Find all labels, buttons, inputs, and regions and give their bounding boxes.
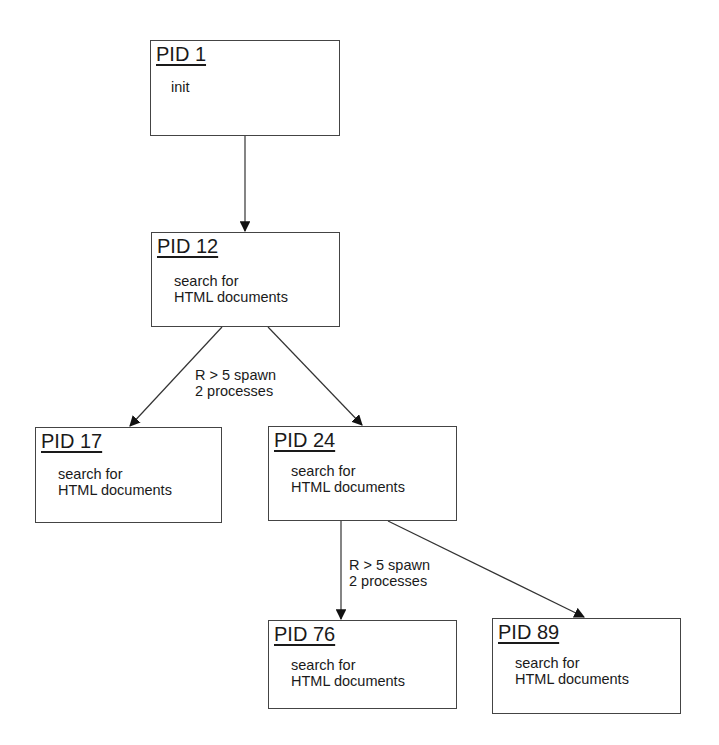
process-node-pid89: PID 89 search for HTML documents — [492, 618, 681, 714]
edge-label-line: 2 processes — [195, 383, 273, 399]
node-description: search for HTML documents — [174, 273, 288, 305]
process-node-pid12: PID 12 search for HTML documents — [151, 232, 340, 327]
node-pid-label: PID 89 — [498, 621, 559, 643]
node-description-line: search for — [291, 463, 355, 479]
node-description-line: HTML documents — [515, 671, 629, 687]
node-description: search for HTML documents — [515, 655, 629, 687]
node-description: search for HTML documents — [291, 657, 405, 689]
node-description: search for HTML documents — [58, 466, 172, 498]
node-description-line: HTML documents — [291, 479, 405, 495]
node-description-line: HTML documents — [291, 673, 405, 689]
node-description-line: search for — [291, 657, 355, 673]
node-description: init — [171, 79, 190, 95]
node-description-line: search for — [58, 466, 122, 482]
edge-label-spawn-pid24: R > 5 spawn 2 processes — [349, 557, 430, 589]
node-pid-label: PID 12 — [157, 235, 218, 257]
process-node-pid76: PID 76 search for HTML documents — [268, 620, 457, 709]
process-node-pid24: PID 24 search for HTML documents — [268, 426, 457, 521]
edge-label-line: 2 processes — [349, 573, 427, 589]
edge-label-spawn-pid12: R > 5 spawn 2 processes — [195, 367, 276, 399]
node-description: search for HTML documents — [291, 463, 405, 495]
node-pid-label: PID 76 — [274, 623, 335, 645]
edge-pid12-pid24 — [268, 327, 362, 425]
process-node-pid1: PID 1 init — [150, 40, 340, 136]
node-description-line: search for — [174, 273, 238, 289]
node-description-line: HTML documents — [58, 482, 172, 498]
node-description-line: search for — [515, 655, 579, 671]
node-pid-label: PID 17 — [41, 430, 102, 452]
edge-label-line: R > 5 spawn — [195, 367, 276, 383]
process-node-pid17: PID 17 search for HTML documents — [35, 427, 222, 523]
node-pid-label: PID 24 — [274, 429, 335, 451]
node-description-line: HTML documents — [174, 289, 288, 305]
edge-label-line: R > 5 spawn — [349, 557, 430, 573]
node-pid-label: PID 1 — [156, 43, 206, 65]
